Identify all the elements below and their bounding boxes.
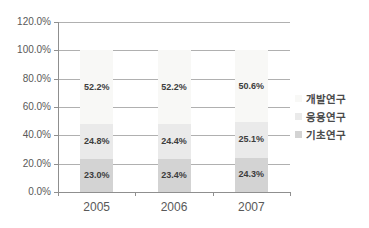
x-axis-tick-label: 2007: [221, 200, 281, 214]
x-axis-tick-label: 2006: [144, 200, 204, 214]
bar-segment-label: 52.2%: [152, 82, 197, 93]
legend-swatch-icon: [295, 113, 302, 120]
y-axis-line: [58, 22, 59, 192]
x-axis-tick: [135, 192, 136, 196]
y-axis-tick-label: 80.0%: [0, 73, 51, 85]
y-axis-tick-label: 100.0%: [0, 44, 51, 56]
x-axis-tick: [213, 192, 214, 196]
gridline: [58, 22, 290, 23]
y-axis-tick-label: 20.0%: [0, 158, 51, 170]
y-axis-tick-label: 40.0%: [0, 129, 51, 141]
legend-swatch-icon: [295, 131, 302, 138]
bar-segment-label: 24.4%: [152, 136, 197, 147]
bar-segment-label: 52.2%: [74, 82, 119, 93]
legend-item: 응용연구: [295, 107, 346, 125]
bar-segment-label: 23.4%: [152, 170, 197, 181]
chart-legend: 개발연구응용연구기초연구: [295, 89, 346, 143]
x-axis-tick: [58, 192, 59, 196]
x-axis-line: [54, 192, 290, 193]
y-axis-tick-label: 120.0%: [0, 16, 51, 28]
x-axis-tick-label: 2005: [67, 200, 127, 214]
legend-label: 기초연구: [306, 127, 346, 142]
bar-segment-label: 24.8%: [74, 136, 119, 147]
legend-item: 기초연구: [295, 125, 346, 143]
bar-segment-label: 23.0%: [74, 170, 119, 181]
y-axis-tick-label: 60.0%: [0, 101, 51, 113]
bar-segment-label: 25.1%: [229, 134, 274, 145]
legend-label: 응용연구: [306, 109, 346, 124]
legend-item: 개발연구: [295, 89, 346, 107]
bar-segment-label: 50.6%: [229, 81, 274, 92]
x-axis-tick: [290, 192, 291, 196]
bar-segment-label: 24.3%: [229, 169, 274, 180]
legend-label: 개발연구: [306, 91, 346, 106]
stacked-bar-chart: 0.0%20.0%40.0%60.0%80.0%100.0%120.0% 23.…: [0, 0, 369, 228]
legend-swatch-icon: [295, 95, 302, 102]
y-axis-tick-label: 0.0%: [0, 186, 51, 198]
